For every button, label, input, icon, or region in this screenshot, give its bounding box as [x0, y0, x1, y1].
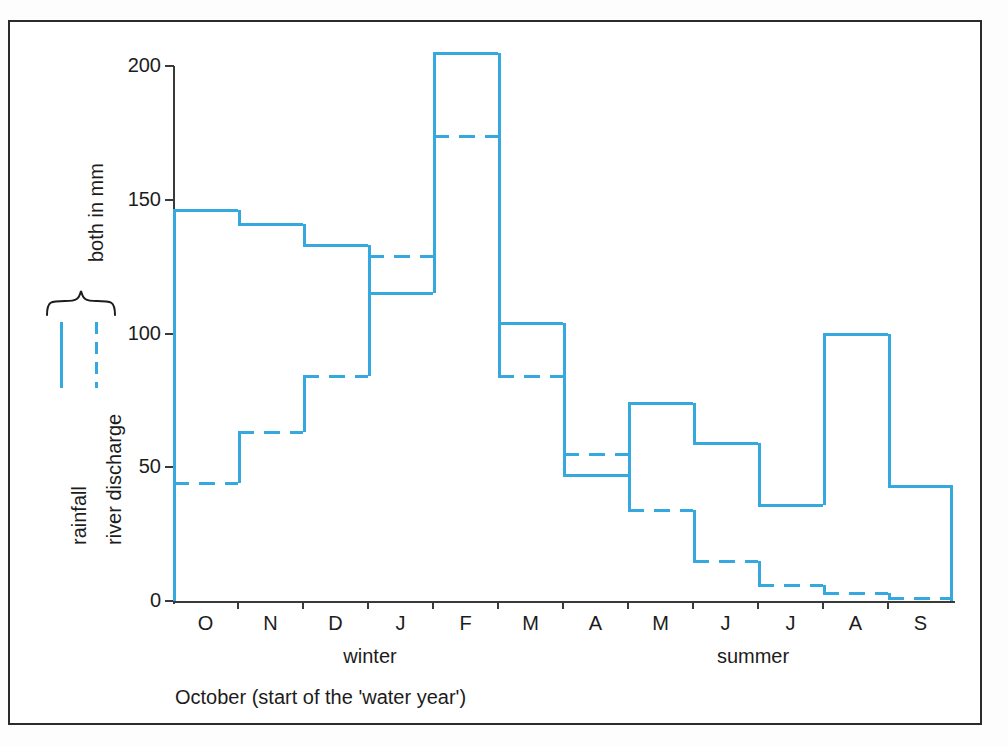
x-tick-label-n-1: N — [238, 611, 303, 635]
bar-river-discharge-connector-3 — [368, 256, 371, 376]
bar-river-discharge-S-11 — [888, 597, 953, 600]
bar-river-discharge-connector-9 — [758, 561, 761, 585]
x-tick-label-a-10: A — [823, 611, 888, 635]
legend-swatch-rainfall — [60, 322, 63, 388]
x-tick-label-j-9: J — [758, 611, 823, 635]
bar-rainfall-edge-left-J-9 — [758, 443, 761, 505]
bar-rainfall-top-M-7 — [628, 402, 693, 405]
y-tick-label: 0 — [95, 590, 161, 610]
bar-rainfall-edge-left-S-11 — [888, 334, 891, 486]
x-tick-label-m-5: M — [498, 611, 563, 635]
bar-river-discharge-M-7 — [628, 509, 693, 512]
x-axis-line — [173, 601, 955, 603]
bar-river-discharge-J-3 — [368, 255, 433, 258]
bar-river-discharge-connector-2 — [303, 376, 306, 432]
bar-river-discharge-connector-1 — [238, 432, 241, 483]
bar-rainfall-top-J-3 — [368, 292, 433, 295]
bar-rainfall-edge-left-N-1 — [238, 210, 241, 223]
bar-rainfall-top-F-4 — [433, 52, 498, 55]
x-tick-mark — [757, 601, 759, 609]
bar-river-discharge-connector-11 — [888, 593, 891, 598]
bar-river-discharge-connector-8 — [693, 510, 696, 561]
x-tick-label-m-7: M — [628, 611, 693, 635]
bar-rainfall-top-A-10 — [823, 333, 888, 336]
chart-plot-area: 050100150200 ONDJFMAMJJAS winter summer … — [0, 0, 1008, 746]
x-tick-mark — [237, 601, 239, 609]
bar-river-discharge-connector-4 — [433, 136, 436, 256]
bar-river-discharge-N-1 — [238, 431, 303, 434]
x-axis-caption: October (start of the 'water year') — [175, 686, 466, 709]
x-tick-mark — [887, 601, 889, 609]
x-tick-label-a-6: A — [563, 611, 628, 635]
bar-rainfall-top-J-9 — [758, 504, 823, 507]
x-tick-mark — [692, 601, 694, 609]
bar-rainfall-edge-left-J-8 — [693, 403, 696, 443]
bar-river-discharge-J-9 — [758, 584, 823, 587]
bar-river-discharge-A-10 — [823, 592, 888, 595]
bar-river-discharge-F-4 — [433, 135, 498, 138]
bar-rainfall-edge-left-D-2 — [303, 224, 306, 245]
legend-swatch-river-discharge — [95, 322, 98, 388]
y-tick-mark — [165, 199, 174, 201]
bar-rainfall-top-O-0 — [173, 209, 238, 212]
bar-rainfall-top-N-1 — [238, 223, 303, 226]
x-tick-label-j-8: J — [693, 611, 758, 635]
bar-rainfall-top-S-11 — [888, 485, 953, 488]
figure-canvas: 050100150200 ONDJFMAMJJAS winter summer … — [0, 0, 1008, 746]
y-tick-mark — [165, 65, 174, 67]
x-tick-mark — [432, 601, 434, 609]
bar-river-discharge-connector-10 — [823, 585, 826, 593]
x-tick-mark — [302, 601, 304, 609]
x-tick-label-s-11: S — [888, 611, 953, 635]
bar-river-discharge-O-0 — [173, 482, 238, 485]
bar-rainfall-top-A-6 — [563, 474, 628, 477]
legend-group-label: both in mm — [85, 163, 108, 262]
x-tick-label-f-4: F — [433, 611, 498, 635]
bar-river-discharge-connector-5 — [498, 136, 501, 377]
x-tick-mark — [562, 601, 564, 609]
x-tick-label-j-3: J — [368, 611, 433, 635]
bar-rainfall-edge-left-A-10 — [823, 334, 826, 505]
bar-river-discharge-J-8 — [693, 560, 758, 563]
bar-river-discharge-D-2 — [303, 375, 368, 378]
x-tick-label-d-2: D — [303, 611, 368, 635]
bar-rainfall-edge-left-O-0 — [173, 210, 176, 601]
x-tick-mark — [627, 601, 629, 609]
legend-label-river-discharge: river discharge — [103, 414, 126, 545]
season-label-summer: summer — [668, 645, 838, 668]
bar-river-discharge-connector-7 — [628, 454, 631, 510]
x-tick-mark — [822, 601, 824, 609]
bar-river-discharge-connector-6 — [563, 376, 566, 454]
bar-rainfall-edge-right-last — [950, 486, 953, 601]
bar-rainfall-top-M-5 — [498, 322, 563, 325]
x-tick-mark — [367, 601, 369, 609]
bar-rainfall-top-J-8 — [693, 442, 758, 445]
y-tick-label: 100 — [95, 323, 161, 343]
bar-river-discharge-A-6 — [563, 453, 628, 456]
legend-brace-icon — [45, 290, 117, 316]
x-tick-label-o-0: O — [173, 611, 238, 635]
legend-label-rainfall: rainfall — [68, 486, 91, 545]
season-label-winter: winter — [290, 645, 450, 668]
bar-rainfall-top-D-2 — [303, 244, 368, 247]
y-tick-label: 200 — [95, 55, 161, 75]
bar-river-discharge-M-5 — [498, 375, 563, 378]
x-tick-mark — [497, 601, 499, 609]
